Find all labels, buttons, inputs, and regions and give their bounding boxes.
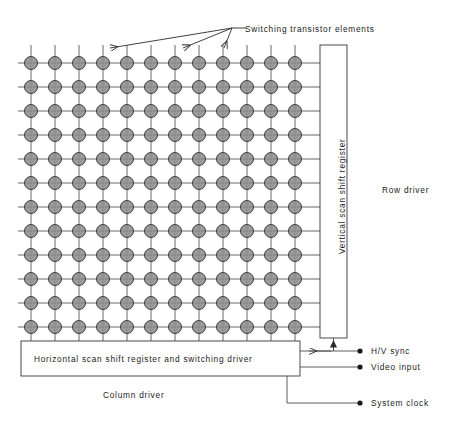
switching-transistor-element [169, 81, 182, 94]
switching-transistor-element [289, 273, 302, 286]
switching-transistor-element [193, 321, 206, 334]
switching-transistor-element [49, 249, 62, 262]
switching-transistor-element [145, 177, 158, 190]
switching-transistor-element [265, 153, 278, 166]
switching-transistor-element [73, 321, 86, 334]
switching-transistor-element [73, 201, 86, 214]
video-input-terminal-dot[interactable] [357, 364, 362, 369]
switching-transistor-element [241, 249, 254, 262]
switching-transistor-element [265, 105, 278, 118]
switching-transistor-element [121, 249, 134, 262]
switching-transistor-element [193, 177, 206, 190]
switching-transistor-element [289, 81, 302, 94]
switching-transistor-element [25, 225, 38, 238]
switching-transistor-element [217, 225, 230, 238]
switching-transistor-element [193, 297, 206, 310]
switching-transistor-element [145, 297, 158, 310]
switching-transistor-element [289, 201, 302, 214]
hv-sync-terminal-dot[interactable] [357, 348, 362, 353]
switching-transistor-element [49, 153, 62, 166]
system-clock-terminal-label[interactable]: System clock [371, 399, 429, 407]
switching-transistor-element [193, 249, 206, 262]
switching-transistor-element [97, 81, 110, 94]
vertical-scan-shift-register-label: Vertical scan shift register [338, 138, 346, 254]
switching-transistor-element [97, 129, 110, 142]
switching-transistor-element [193, 57, 206, 70]
switching-transistor-element [25, 321, 38, 334]
switching-transistor-element [217, 153, 230, 166]
switching-transistor-element [193, 225, 206, 238]
switching-transistor-element [217, 177, 230, 190]
video-input-terminal-label[interactable]: Video input [371, 363, 421, 371]
switching-transistor-elements-label: Switching transistor elements [245, 25, 375, 33]
switching-transistor-element [145, 81, 158, 94]
switching-transistor-element [169, 225, 182, 238]
signal-terminal-dots [357, 348, 362, 405]
switching-transistor-element [289, 297, 302, 310]
switching-transistor-element [25, 273, 38, 286]
switching-transistor-element [97, 273, 110, 286]
switching-transistor-element [193, 81, 206, 94]
switching-transistor-element [289, 129, 302, 142]
switching-transistor-element [97, 225, 110, 238]
hv-sync-terminal-label[interactable]: H/V sync [371, 347, 410, 355]
switching-transistor-element [121, 153, 134, 166]
switching-transistor-element [145, 153, 158, 166]
switching-transistor-element [169, 297, 182, 310]
switching-transistor-element [169, 273, 182, 286]
switching-transistor-element [169, 321, 182, 334]
matrix-transistor-elements [25, 57, 302, 334]
switching-transistor-element [193, 153, 206, 166]
switching-transistor-element [241, 321, 254, 334]
switching-transistor-element [265, 273, 278, 286]
switching-transistor-element [121, 129, 134, 142]
switching-transistor-element [289, 321, 302, 334]
switching-transistor-element [169, 129, 182, 142]
switching-transistor-element [169, 153, 182, 166]
switching-transistor-element [217, 297, 230, 310]
switching-transistor-element [145, 105, 158, 118]
switching-transistor-element [97, 177, 110, 190]
switching-transistor-element [49, 105, 62, 118]
switching-transistor-element [49, 129, 62, 142]
switching-transistor-element [121, 225, 134, 238]
switching-transistor-element [25, 153, 38, 166]
switching-transistor-element [121, 273, 134, 286]
switching-transistor-element [217, 81, 230, 94]
switching-transistor-element [289, 57, 302, 70]
switching-transistor-element [73, 177, 86, 190]
switching-transistor-element [241, 129, 254, 142]
switching-transistor-element [73, 297, 86, 310]
switching-transistor-element [241, 297, 254, 310]
switching-transistor-element [49, 225, 62, 238]
horizontal-scan-shift-register-label: Horizontal scan shift register and switc… [34, 355, 253, 363]
switching-transistor-element [121, 57, 134, 70]
switching-transistor-element [289, 225, 302, 238]
switching-transistor-element [217, 273, 230, 286]
switching-transistor-element [25, 249, 38, 262]
switching-transistor-element [97, 201, 110, 214]
switching-transistor-element [241, 153, 254, 166]
switching-transistor-element [169, 177, 182, 190]
switching-transistor-element [73, 225, 86, 238]
switching-transistor-element [241, 201, 254, 214]
switching-transistor-element [289, 105, 302, 118]
switching-transistor-element [217, 201, 230, 214]
switching-transistor-element [73, 57, 86, 70]
switching-transistor-element [49, 81, 62, 94]
row-driver-caption: Row driver [382, 186, 429, 194]
switching-transistor-element [193, 105, 206, 118]
switching-transistor-element [49, 273, 62, 286]
switching-transistor-element [265, 249, 278, 262]
switching-transistor-element [145, 321, 158, 334]
diagram-canvas: Vertical scan shift register Horizontal … [0, 0, 458, 426]
switching-transistor-element [193, 201, 206, 214]
switching-transistor-element [73, 105, 86, 118]
switching-transistor-element [193, 273, 206, 286]
leader-arrow [183, 28, 232, 48]
switching-transistor-element [265, 201, 278, 214]
system-clock-terminal-dot[interactable] [357, 400, 362, 405]
switching-transistor-element [73, 81, 86, 94]
switching-transistor-element [145, 129, 158, 142]
switching-transistor-element [169, 57, 182, 70]
